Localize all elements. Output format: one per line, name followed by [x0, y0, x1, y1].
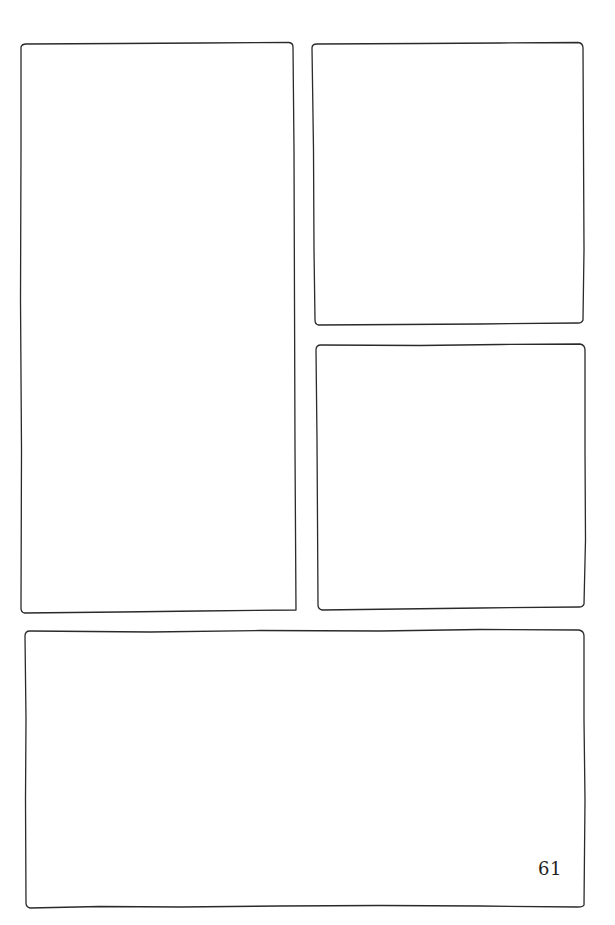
page-number: 61 — [538, 858, 562, 879]
comic-page: 61 — [0, 0, 615, 925]
panel-3 — [316, 345, 585, 610]
panel-2 — [311, 43, 585, 325]
panel-1 — [20, 43, 297, 612]
panel-4 — [24, 630, 585, 908]
